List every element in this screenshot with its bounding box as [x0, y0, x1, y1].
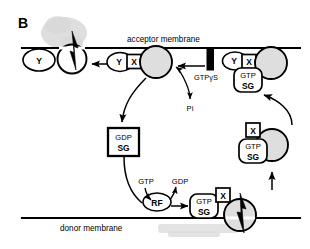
label-rf: RF — [151, 198, 162, 208]
label-pi: Pi — [187, 104, 194, 113]
arrow-free-to-acceptor — [264, 95, 292, 125]
free-vesicle-group: X GTP SG — [239, 123, 288, 163]
arrow-hydrolysis-in — [176, 67, 186, 83]
scan-artifact-bottom — [158, 224, 238, 237]
panel-label: B — [18, 15, 28, 31]
inhibitor-bar-icon — [207, 48, 214, 70]
docked-complex-group: Y X — [107, 46, 172, 78]
arrow-pi-release — [186, 83, 190, 99]
cytosolic-gdp-sg-group: GDP SG — [108, 128, 139, 156]
label-x-free: X — [250, 126, 256, 136]
figure-panel-b: Y Y X GTPγS Pi Y — [0, 0, 310, 249]
label-gdp-out: GDP — [172, 177, 188, 186]
label-y-mid: Y — [116, 57, 122, 67]
arrow-docked-to-cytosolic — [122, 78, 146, 122]
label-gtp-acceptor: GTP — [240, 71, 256, 80]
acceptor-bound-complex-group: Y X GTP SG — [223, 47, 288, 92]
label-gtp-free: GTP — [245, 142, 261, 151]
label-x-donor: X — [220, 191, 226, 201]
label-x-mid: X — [131, 57, 137, 67]
label-gtp-in: GTP — [138, 177, 154, 186]
label-sg-donor: SG — [198, 207, 210, 217]
label-sg-cytosolic: SG — [117, 143, 129, 153]
label-y-left: Y — [36, 56, 42, 66]
label-y-right: Y — [231, 56, 237, 66]
label-sg-free: SG — [247, 152, 259, 162]
arrow-gdp-out — [170, 187, 176, 200]
label-gdp-cytosolic: GDP — [115, 133, 131, 142]
label-gtpgammas: GTPγS — [194, 73, 218, 82]
label-x-right: X — [246, 57, 252, 67]
label-gtp-donor: GTP — [196, 197, 212, 206]
donor-membrane-label: donor membrane — [60, 224, 123, 233]
label-sg-acceptor: SG — [242, 81, 254, 91]
gtpgammas-blocker-group: GTPγS — [194, 48, 218, 82]
acceptor-membrane-label: acceptor membrane — [127, 35, 200, 44]
vesicle-docked — [140, 46, 172, 78]
